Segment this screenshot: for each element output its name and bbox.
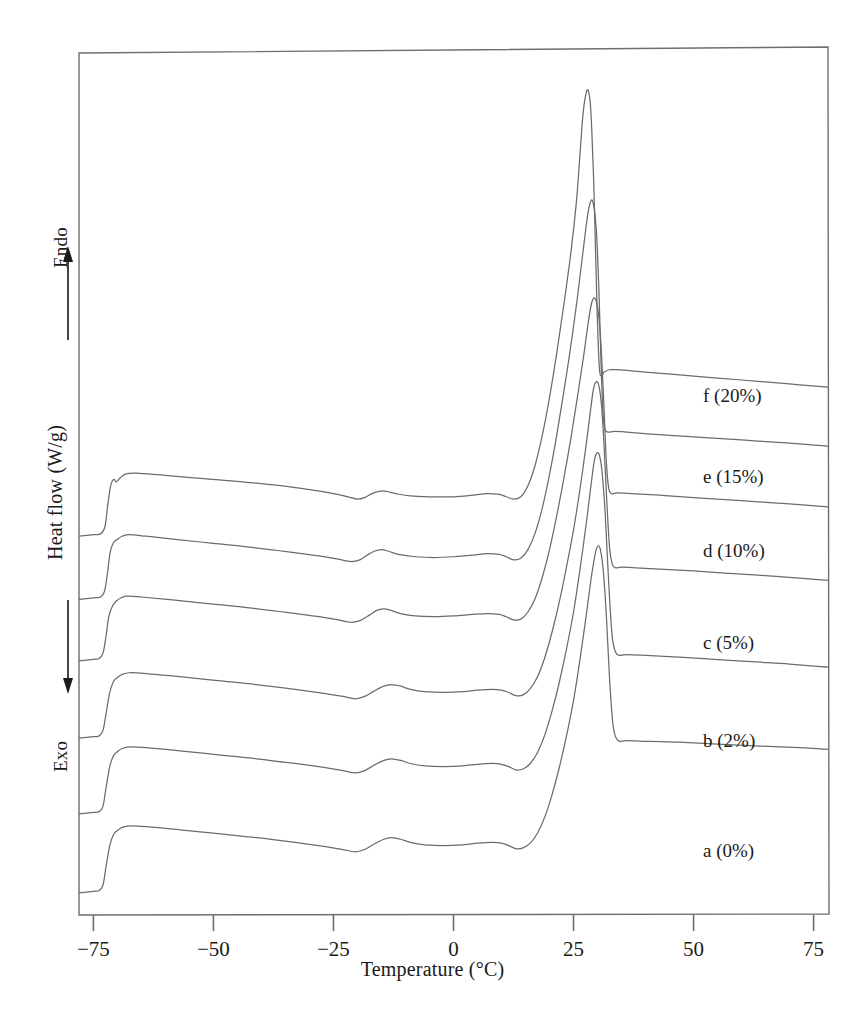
curve-label: b (2%) <box>703 730 755 752</box>
x-axis-ticks <box>93 915 813 931</box>
x-axis-title: Temperature (°C) <box>0 958 865 981</box>
curve-label: d (10%) <box>703 540 765 562</box>
dsc-curves <box>79 90 828 893</box>
endo-direction-label: Endo <box>50 227 72 268</box>
curve-label: e (15%) <box>703 466 764 488</box>
dsc-thermogram-figure: −75−50−250255075 Temperature (°C) Heat f… <box>0 0 865 1034</box>
curve-label: f (20%) <box>703 385 762 407</box>
y-axis-title: Heat flow (W/g) <box>44 425 67 560</box>
curve-label: a (0%) <box>703 840 754 862</box>
curve-label: c (5%) <box>703 632 754 654</box>
exo-direction-label: Exo <box>50 741 72 772</box>
chart-canvas <box>0 0 865 1034</box>
